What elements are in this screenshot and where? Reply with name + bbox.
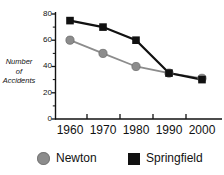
y-tick-label-60: 60 xyxy=(36,36,52,44)
x-tick-label-1990: 1990 xyxy=(152,124,186,137)
data-point-newton-1970 xyxy=(99,49,107,57)
legend-item-springfield: Springfield xyxy=(128,152,203,165)
circle-gray-icon xyxy=(37,152,50,165)
y-axis-title-line-2: of xyxy=(0,67,38,77)
legend-item-newton: Newton xyxy=(37,152,97,165)
x-tick-label-1970: 1970 xyxy=(86,124,120,137)
y-axis-title-line-3: Accidents xyxy=(0,76,38,86)
x-tick-label-1980: 1980 xyxy=(119,124,153,137)
data-point-springfield-1960 xyxy=(66,17,74,25)
series-line-newton xyxy=(70,40,202,78)
square-black-icon xyxy=(128,153,140,165)
y-axis-title: Number of Accidents xyxy=(0,57,38,86)
y-tick-label-20: 20 xyxy=(36,89,52,97)
legend-label-newton: Newton xyxy=(56,152,97,165)
x-axis-ticks xyxy=(87,114,186,119)
data-point-springfield-1990 xyxy=(165,69,173,77)
y-tick-label-80: 80 xyxy=(36,10,52,18)
y-tick-label-0: 0 xyxy=(36,115,52,123)
x-tick-label-1960: 1960 xyxy=(53,124,87,137)
series-markers-springfield xyxy=(66,17,206,84)
data-point-newton-1960 xyxy=(66,36,74,44)
legend-label-springfield: Springfield xyxy=(146,152,203,165)
y-tick-label-40: 40 xyxy=(36,62,52,70)
data-point-springfield-1980 xyxy=(132,36,140,44)
plot-area xyxy=(0,0,224,175)
data-point-newton-1980 xyxy=(132,62,140,70)
x-tick-label-2000: 2000 xyxy=(185,124,219,137)
accidents-line-chart: Number of Accidents 80 60 40 20 0 xyxy=(0,0,224,175)
data-point-springfield-2000 xyxy=(198,76,206,84)
data-point-springfield-1970 xyxy=(99,23,107,31)
y-axis-title-line-1: Number xyxy=(0,57,38,67)
